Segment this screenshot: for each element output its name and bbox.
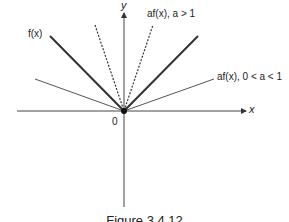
graph-canvas bbox=[0, 0, 289, 222]
x-axis-label: x bbox=[249, 103, 255, 115]
origin-label: 0 bbox=[112, 116, 118, 127]
y-axis-label: y bbox=[121, 0, 127, 11]
curve-label-a-greater-1: af(x), a > 1 bbox=[147, 8, 195, 19]
figure-caption: Figure 3.4.12 bbox=[0, 213, 289, 222]
curve-label-a-between-0-1: af(x), 0 < a < 1 bbox=[217, 71, 282, 82]
origin-point bbox=[121, 108, 127, 114]
curve-label-f: f(x) bbox=[28, 28, 42, 39]
